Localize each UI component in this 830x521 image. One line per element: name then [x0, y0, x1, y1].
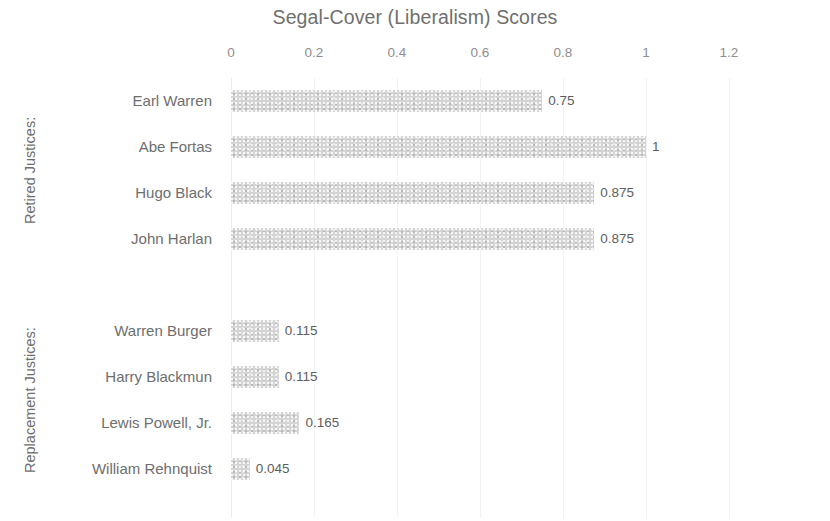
bar: [231, 182, 594, 204]
bar-row: Harry Blackmun0.115: [0, 354, 830, 400]
category-label: [0, 262, 212, 308]
bar-row: Lewis Powell, Jr.0.165: [0, 400, 830, 446]
bar-row: Earl Warren0.75: [0, 78, 830, 124]
bar-row: William Rehnquist0.045: [0, 446, 830, 492]
bar-value-label: 0.875: [600, 182, 634, 204]
bar-row: Warren Burger0.115: [0, 308, 830, 354]
bar: [231, 228, 594, 250]
bar-value-label: 0.045: [256, 458, 290, 480]
bar-rows: Earl Warren0.75Abe Fortas1Hugo Black0.87…: [0, 78, 830, 518]
bar-row-spacer: [0, 262, 830, 308]
bar-value-label: 0.165: [305, 412, 339, 434]
bar-value-label: 0.75: [548, 90, 574, 112]
x-axis-tick-labels: 00.20.40.60.811.2: [0, 45, 830, 65]
x-axis-tick-0-2: 0.2: [305, 45, 324, 60]
bar-row: John Harlan0.875: [0, 216, 830, 262]
bar: [231, 366, 279, 388]
bar: [231, 136, 646, 158]
bar-row: Hugo Black0.875: [0, 170, 830, 216]
bar: [231, 320, 279, 342]
group-label-retired-justices: Retired Justices:: [22, 116, 38, 223]
bar-value-label: 1: [652, 136, 660, 158]
bar-value-label: 0.875: [600, 228, 634, 250]
bar-row: Abe Fortas1: [0, 124, 830, 170]
x-axis-tick-0-6: 0.6: [471, 45, 490, 60]
x-axis-tick-1-2: 1.2: [720, 45, 739, 60]
bar: [231, 90, 542, 112]
bar: [231, 458, 250, 480]
x-axis-tick-0: 0: [227, 45, 235, 60]
bar: [231, 412, 299, 434]
chart-container: Segal-Cover (Liberalism) Scores 00.20.40…: [0, 0, 830, 521]
chart-title: Segal-Cover (Liberalism) Scores: [0, 6, 830, 29]
x-axis-tick-0-4: 0.4: [388, 45, 407, 60]
bar-value-label: 0.115: [285, 320, 318, 342]
x-axis-tick-1: 1: [642, 45, 650, 60]
group-label-replacement-justices: Replacement Justices:: [22, 327, 38, 473]
x-axis-tick-0-8: 0.8: [554, 45, 573, 60]
bar-value-label: 0.115: [285, 366, 318, 388]
